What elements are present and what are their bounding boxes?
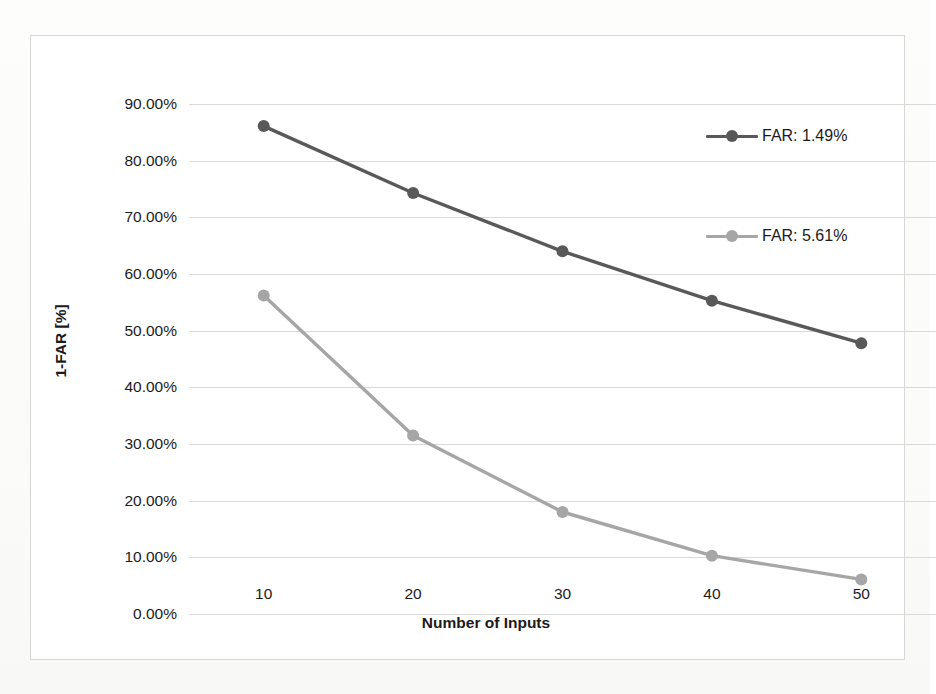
gridline — [189, 217, 936, 218]
y-tick-label: 60.00% — [124, 265, 177, 283]
gridline — [189, 104, 936, 105]
x-tick-label: 10 — [255, 585, 272, 603]
y-tick-label: 20.00% — [124, 492, 177, 510]
y-tick-label: 80.00% — [124, 152, 177, 170]
gridline — [189, 501, 936, 502]
plot-area — [189, 104, 936, 614]
legend-marker-icon — [706, 229, 758, 243]
x-tick-label: 40 — [703, 585, 720, 603]
y-axis-title: 1-FAR [%] — [52, 304, 70, 377]
x-axis-title: Number of Inputs — [422, 614, 550, 632]
legend-item-far-5-61[interactable]: FAR: 5.61% — [706, 227, 847, 245]
y-tick-label: 30.00% — [124, 435, 177, 453]
y-tick-label: 90.00% — [124, 95, 177, 113]
legend-label: FAR: 5.61% — [762, 227, 847, 245]
chart-frame: 0.00%10.00%20.00%30.00%40.00%50.00%60.00… — [30, 35, 905, 660]
y-tick-label: 50.00% — [124, 322, 177, 340]
gridline — [189, 331, 936, 332]
gridline — [189, 444, 936, 445]
x-tick-label: 50 — [853, 585, 870, 603]
x-tick-label: 20 — [404, 585, 421, 603]
legend-label: FAR: 1.49% — [762, 127, 847, 145]
legend-marker-icon — [706, 129, 758, 143]
gridline — [189, 557, 936, 558]
gridline — [189, 161, 936, 162]
y-tick-label: 10.00% — [124, 548, 177, 566]
gridline — [189, 614, 936, 615]
y-tick-label: 40.00% — [124, 378, 177, 396]
gridline — [189, 387, 936, 388]
x-tick-label: 30 — [554, 585, 571, 603]
legend-item-far-1-49[interactable]: FAR: 1.49% — [706, 127, 847, 145]
gridline — [189, 274, 936, 275]
y-tick-label: 0.00% — [133, 605, 177, 623]
y-tick-label: 70.00% — [124, 208, 177, 226]
